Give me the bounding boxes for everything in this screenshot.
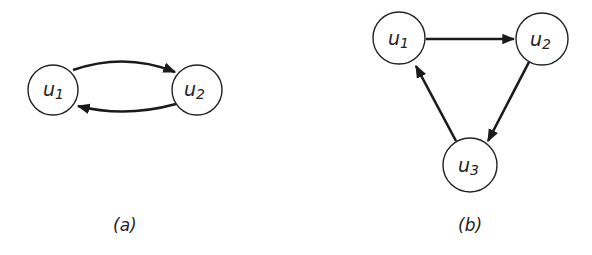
diagram-canvas: u1 u2 (a) u1 u2 u3 (b) <box>0 0 592 255</box>
figure-b: u1 u2 u3 (b) <box>373 12 568 235</box>
node-b-u1: u1 <box>373 12 425 64</box>
node-b-u3: u3 <box>443 138 497 192</box>
edge-b-u2-u3 <box>488 62 529 141</box>
caption-a: (a) <box>113 215 137 235</box>
node-a-u1: u1 <box>28 65 78 115</box>
node-a-u2: u2 <box>172 65 222 115</box>
edge-a-u1-u2 <box>73 61 175 72</box>
edge-b-u3-u1 <box>416 66 456 141</box>
node-b-u2: u2 <box>516 13 568 65</box>
figure-a: u1 u2 (a) <box>28 61 222 235</box>
edge-a-u2-u1 <box>78 104 176 112</box>
caption-b: (b) <box>458 215 482 235</box>
